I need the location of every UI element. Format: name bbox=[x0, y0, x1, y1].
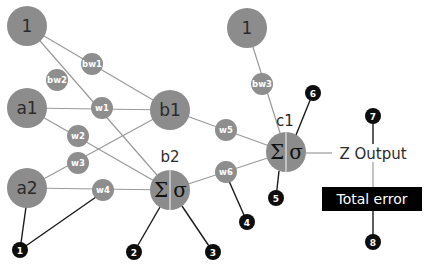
bw3-label: bw3 bbox=[252, 79, 272, 89]
b2-label: b2 bbox=[160, 148, 179, 166]
w5-label: w5 bbox=[219, 125, 233, 135]
badge-4: 4 bbox=[239, 214, 255, 230]
w1-label: w1 bbox=[95, 103, 109, 113]
c1-label: c1 bbox=[276, 112, 294, 130]
node-bias2: 1 bbox=[227, 8, 267, 48]
w3-label: w3 bbox=[71, 158, 85, 168]
badge-1: 1 bbox=[12, 242, 28, 258]
node-b2: b2 Σ σ bbox=[150, 148, 190, 210]
bias2-label: 1 bbox=[242, 18, 253, 38]
badge-5-number: 5 bbox=[273, 194, 279, 204]
weight-bw2: bw2 bbox=[46, 69, 68, 91]
network-diagram: 1 a1 a2 b1 b2 Σ σ 1 c1 Σ σ bw1 bw bbox=[0, 0, 431, 271]
bw2-label: bw2 bbox=[47, 75, 67, 85]
total-error-box: Total error bbox=[322, 187, 422, 211]
sum-icon: Σ bbox=[154, 178, 168, 202]
weight-w4: w4 bbox=[92, 179, 114, 201]
edge-a2-b1 bbox=[27, 110, 170, 188]
badge-6: 6 bbox=[305, 85, 321, 101]
bias1-label: 1 bbox=[22, 16, 33, 36]
badge-7-number: 7 bbox=[370, 112, 376, 122]
badge-4-number: 4 bbox=[244, 218, 250, 228]
bw1-label: bw1 bbox=[82, 59, 102, 69]
node-b1: b1 bbox=[150, 90, 190, 130]
w2-label: w2 bbox=[71, 131, 85, 141]
badge-3: 3 bbox=[205, 244, 221, 260]
badge-7: 7 bbox=[365, 108, 381, 124]
badge-8-number: 8 bbox=[370, 238, 376, 248]
weight-w2: w2 bbox=[67, 125, 89, 147]
total-error-label: Total error bbox=[335, 191, 407, 207]
badge-2-number: 2 bbox=[131, 248, 137, 258]
badge-6-number: 6 bbox=[310, 89, 316, 99]
badges: 1 2 3 4 5 6 7 8 bbox=[12, 85, 381, 260]
node-bias1: 1 bbox=[7, 6, 47, 46]
node-c1: c1 Σ σ bbox=[266, 112, 306, 172]
a1-label: a1 bbox=[16, 98, 37, 118]
weight-bw3: bw3 bbox=[251, 73, 273, 95]
badge-1-number: 1 bbox=[17, 246, 23, 256]
a2-label: a2 bbox=[16, 178, 37, 198]
weight-bw1: bw1 bbox=[81, 53, 103, 75]
weight-w1: w1 bbox=[91, 97, 113, 119]
sigma-activation-icon: σ bbox=[173, 178, 187, 202]
sum-icon: Σ bbox=[270, 140, 284, 164]
weight-w5: w5 bbox=[215, 119, 237, 141]
w4-label: w4 bbox=[96, 185, 110, 195]
pointer-3 bbox=[182, 206, 213, 252]
badge-8: 8 bbox=[365, 234, 381, 250]
weight-w3: w3 bbox=[67, 152, 89, 174]
node-a2: a2 bbox=[7, 168, 47, 208]
badge-5: 5 bbox=[268, 190, 284, 206]
z-output-label: Z Output bbox=[339, 145, 406, 163]
weight-w6: w6 bbox=[215, 161, 237, 183]
sigma-activation-icon: σ bbox=[289, 140, 303, 164]
badge-2: 2 bbox=[126, 244, 142, 260]
node-a1: a1 bbox=[7, 88, 47, 128]
w6-label: w6 bbox=[219, 167, 233, 177]
b1-label: b1 bbox=[159, 100, 181, 120]
badge-3-number: 3 bbox=[210, 248, 216, 258]
